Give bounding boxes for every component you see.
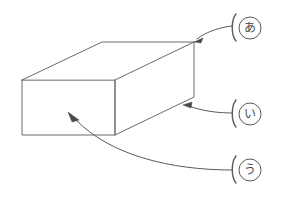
figure-container: あ い う bbox=[0, 0, 282, 199]
label-bracket-i bbox=[232, 100, 236, 127]
box-diagram-svg: あ い う bbox=[0, 0, 282, 199]
label-i[interactable]: い bbox=[232, 100, 261, 127]
label-kana-a: あ bbox=[244, 21, 256, 35]
leader-line-i bbox=[189, 106, 232, 113]
label-bracket-a bbox=[232, 14, 236, 41]
leader-i bbox=[183, 102, 232, 113]
arrow-head-i bbox=[183, 102, 192, 108]
rectangular-box bbox=[22, 42, 194, 135]
label-a[interactable]: あ bbox=[232, 14, 261, 41]
label-u[interactable]: う bbox=[232, 156, 261, 183]
label-bracket-u bbox=[232, 156, 236, 183]
leader-line-a bbox=[197, 26, 232, 39]
arrow-head-a bbox=[194, 38, 203, 43]
label-kana-u: う bbox=[244, 163, 256, 177]
leader-a bbox=[194, 26, 232, 43]
label-kana-i: い bbox=[244, 107, 256, 121]
box-front-face bbox=[22, 80, 115, 135]
